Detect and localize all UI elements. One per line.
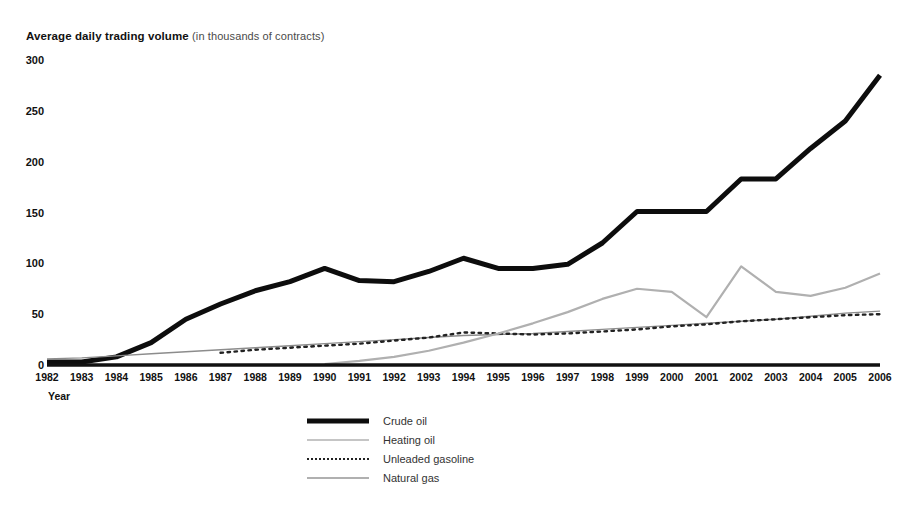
x-tick-label: 2004 [799, 371, 822, 383]
legend-item[interactable]: Natural gas [307, 468, 607, 487]
chart-title-note: (in thousands of contracts) [192, 30, 324, 42]
legend-swatch [307, 418, 369, 423]
legend-swatch [307, 477, 369, 479]
x-tick-label: 2003 [764, 371, 787, 383]
x-tick-label: 1990 [313, 371, 336, 383]
y-tick-label: 250 [2, 105, 44, 117]
y-tick-label: 50 [2, 308, 44, 320]
y-tick-label: 200 [2, 156, 44, 168]
x-tick-label: 1996 [521, 371, 544, 383]
x-tick-label: 1988 [244, 371, 267, 383]
x-tick-label: 2000 [660, 371, 683, 383]
x-tick-label: 1998 [591, 371, 614, 383]
x-tick-label: 1982 [35, 371, 58, 383]
chart-container: Average daily trading volume (in thousan… [0, 0, 909, 519]
x-axis-title: Year [48, 390, 70, 402]
legend-label: Heating oil [383, 434, 435, 446]
y-axis-labels: 050100150200250300 [0, 52, 44, 377]
series-line [47, 75, 880, 362]
x-tick-label: 1985 [139, 371, 162, 383]
legend-item[interactable]: Heating oil [307, 430, 607, 449]
plot-area [47, 60, 880, 365]
legend-label: Natural gas [383, 472, 439, 484]
chart-title: Average daily trading volume (in thousan… [26, 30, 324, 42]
x-tick-label: 1984 [105, 371, 128, 383]
x-tick-label: 1991 [348, 371, 371, 383]
series-canvas [47, 60, 880, 365]
legend-label: Unleaded gasoline [383, 453, 474, 465]
x-tick-label: 1992 [382, 371, 405, 383]
x-tick-label: 2006 [868, 371, 891, 383]
legend-item[interactable]: Crude oil [307, 411, 607, 430]
legend-item[interactable]: Unleaded gasoline [307, 449, 607, 468]
legend-swatch [307, 458, 369, 460]
x-tick-label: 2001 [695, 371, 718, 383]
x-tick-label: 2005 [834, 371, 857, 383]
x-tick-label: 1983 [70, 371, 93, 383]
y-tick-label: 100 [2, 257, 44, 269]
y-tick-label: 300 [2, 54, 44, 66]
x-tick-label: 1999 [625, 371, 648, 383]
legend-label: Crude oil [383, 415, 427, 427]
x-tick-label: 1994 [452, 371, 475, 383]
series-line [47, 311, 880, 359]
x-axis-labels: 1982198319841985198619871988198919901991… [0, 371, 909, 387]
x-tick-label: 1993 [417, 371, 440, 383]
series-line [221, 314, 880, 353]
chart-title-main: Average daily trading volume [26, 30, 189, 42]
x-tick-label: 1989 [278, 371, 301, 383]
x-tick-label: 1995 [487, 371, 510, 383]
x-tick-label: 1986 [174, 371, 197, 383]
legend-swatch [307, 439, 369, 440]
y-tick-label: 0 [2, 359, 44, 371]
x-tick-label: 1987 [209, 371, 232, 383]
series-line [325, 266, 880, 364]
y-tick-label: 150 [2, 207, 44, 219]
x-tick-label: 1997 [556, 371, 579, 383]
chart-legend: Crude oilHeating oilUnleaded gasolineNat… [307, 411, 607, 487]
x-tick-label: 2002 [729, 371, 752, 383]
